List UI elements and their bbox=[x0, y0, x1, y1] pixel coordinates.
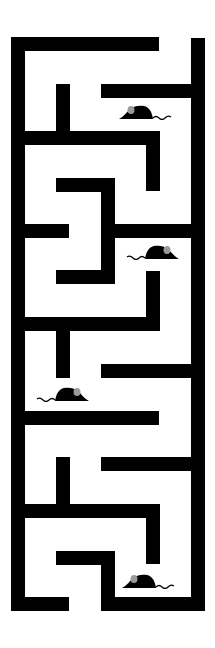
maze-wall-h5-mid bbox=[56, 270, 114, 284]
maze-wall-v1-post bbox=[56, 84, 70, 134]
maze-wall-h6-left bbox=[11, 317, 159, 331]
maze-wall-h8-left bbox=[11, 411, 159, 425]
maze-wall-h4-left bbox=[11, 224, 69, 238]
maze-wall-h4-right bbox=[101, 224, 191, 238]
maze-wall-h1-right bbox=[101, 84, 191, 98]
maze-wall-v2-right bbox=[146, 131, 160, 191]
mouse-2-icon[interactable] bbox=[125, 244, 181, 260]
maze-wall-h7-right bbox=[101, 364, 191, 378]
maze-wall-v11-mid bbox=[101, 551, 115, 611]
mouse-1-icon[interactable] bbox=[117, 104, 173, 120]
maze-wall-h10-left bbox=[11, 504, 159, 518]
maze-wall-h2-left bbox=[11, 131, 159, 145]
mouse-4-icon[interactable] bbox=[120, 573, 176, 589]
maze-wall-top-left bbox=[11, 37, 159, 51]
maze-wall-v6-post bbox=[56, 317, 70, 378]
maze-wall-v9-post bbox=[56, 457, 70, 507]
maze-wall-outer-right bbox=[191, 38, 205, 611]
mouse-3-icon[interactable] bbox=[35, 386, 91, 402]
maze-wall-bottom-left bbox=[11, 597, 69, 611]
maze-wall-bottom-right bbox=[101, 597, 205, 611]
maze-wall-v10-right bbox=[146, 504, 160, 564]
maze-wall-h9-right bbox=[101, 457, 191, 471]
maze-board bbox=[0, 0, 215, 648]
